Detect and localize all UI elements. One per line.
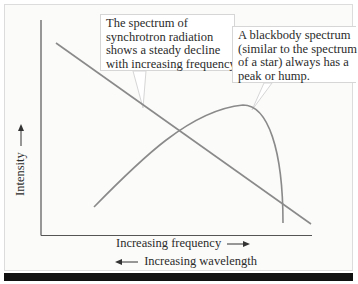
x-axis-label-frequency-text: Increasing frequency	[116, 236, 221, 250]
arrow-right-icon	[17, 123, 25, 149]
callout-2-pointer	[252, 83, 272, 110]
synchrotron-callout: The spectrum of synchrotron radiation sh…	[100, 14, 235, 71]
callout-text: A blackbody spectrum	[238, 29, 352, 43]
blackbody-curve	[94, 105, 283, 223]
x-axis-label-wavelength: Increasing wavelength	[113, 254, 257, 269]
callout-text: shows a steady decline	[106, 44, 230, 58]
x-axis-label-wavelength-text: Increasing wavelength	[144, 254, 257, 268]
y-axis-label-text: Intensity	[13, 152, 27, 196]
callout-text: of a star) always has a	[238, 56, 352, 70]
callout-text: synchrotron radiation	[106, 31, 230, 45]
arrow-left-icon	[113, 258, 141, 266]
bottom-rule	[4, 273, 353, 281]
arrow-right-icon	[224, 240, 252, 248]
callout-text: The spectrum of	[106, 17, 230, 31]
x-axis-label-frequency: Increasing frequency	[116, 236, 252, 251]
blackbody-callout: A blackbody spectrum (similar to the spe…	[232, 26, 356, 83]
callout-text: peak or hump.	[238, 70, 352, 84]
callout-text: (similar to the spectrum	[238, 43, 352, 57]
callout-text: with increasing frequency.	[106, 58, 230, 72]
y-axis-label: Intensity	[13, 123, 28, 196]
